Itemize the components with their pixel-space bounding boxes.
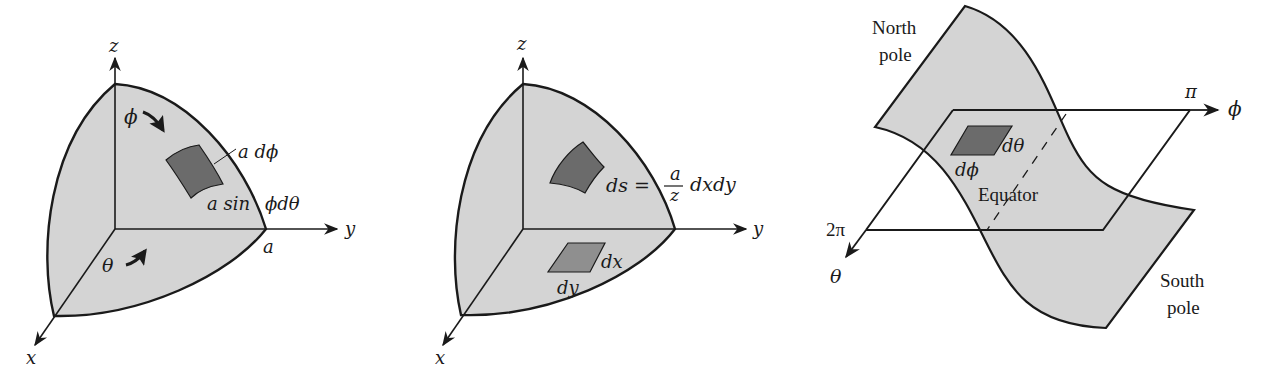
phi-label: ϕ <box>124 105 138 129</box>
dy-label: dy <box>557 277 580 298</box>
ds-label: ds = <box>606 174 650 196</box>
dxdy-label: dxdy <box>690 173 736 195</box>
spherical-coordinates-diagram: z y x ϕ θ a dϕ a sin ϕdθ a z y x ds = a … <box>0 0 1277 372</box>
north-pole-label-line1: North <box>872 17 917 38</box>
x-axis-label: x <box>435 347 445 368</box>
radius-a-label: a <box>263 236 274 257</box>
x-axis-label: x <box>26 347 36 368</box>
phi-axis-label: ϕ <box>1228 97 1242 121</box>
z-axis-label: z <box>516 33 527 54</box>
fraction-numerator: a <box>670 163 681 184</box>
equator-label: Equator <box>978 184 1039 205</box>
dphi-label: dϕ <box>955 159 979 180</box>
z-axis-label: z <box>108 35 119 56</box>
south-pole-label-line1: South <box>1160 270 1205 291</box>
fraction-denominator: z <box>669 185 680 205</box>
panel-projected-area-element: z y x ds = a z dxdy dx dy <box>435 33 764 368</box>
panel-spherical-area-element: z y x ϕ θ a dϕ a sin ϕdθ a <box>26 35 356 368</box>
y-axis-label: y <box>344 218 356 239</box>
north-pole-label-line2: pole <box>879 44 912 65</box>
dtheta-label: dθ <box>1002 135 1025 156</box>
two-pi-label: 2π <box>826 219 846 240</box>
dx-label: dx <box>601 251 623 272</box>
pi-label: π <box>1184 81 1198 102</box>
a-sin-label: a sin <box>207 193 250 214</box>
theta-axis <box>846 230 866 257</box>
panel-parameter-plane: North pole South pole π ϕ 2π θ dθ dϕ Equ… <box>826 6 1242 328</box>
phi-dtheta-label: ϕdθ <box>265 193 300 214</box>
y-axis-label: y <box>752 218 764 239</box>
theta-axis-label: θ <box>830 265 842 287</box>
theta-label: θ <box>102 254 114 276</box>
a-dphi-label: a dϕ <box>238 141 278 162</box>
south-pole-label-line2: pole <box>1167 297 1200 318</box>
